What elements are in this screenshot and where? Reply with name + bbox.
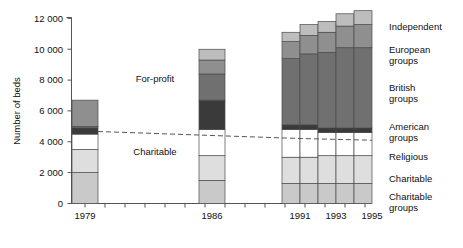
x-tick-label-1979: 1979	[74, 210, 95, 221]
bar-segment	[318, 133, 336, 156]
bar-segment	[354, 48, 372, 128]
annotation-for-profit: For-profit	[136, 73, 175, 84]
bar-segment	[354, 128, 372, 133]
legend: Independent European groups British grou…	[389, 21, 442, 213]
y-tick-label: 4 000	[39, 136, 63, 147]
y-tick-label: 6 000	[39, 105, 63, 116]
bar-segment	[300, 35, 318, 54]
bar-segment	[199, 49, 225, 60]
bar-segment	[199, 100, 225, 129]
bar-segment	[354, 156, 372, 184]
bar-segment	[318, 128, 336, 133]
x-axis-tick-labels: 1979 1986 1991 1993 1995	[74, 210, 382, 221]
bar-segment	[282, 157, 300, 183]
x-tick-label-1991: 1991	[289, 210, 310, 221]
bar-segment	[199, 129, 225, 155]
bar-segment	[300, 129, 318, 157]
legend-item-american-groups: American	[389, 121, 429, 132]
y-tick-label: 10 000	[34, 44, 63, 55]
y-axis-ticks	[68, 18, 72, 203]
legend-item-american-groups-line2: groups	[389, 132, 418, 143]
bar-segment	[354, 11, 372, 25]
bar-segment	[354, 133, 372, 156]
bar-segment	[199, 180, 225, 203]
y-tick-label: 2 000	[39, 167, 63, 178]
bar-segment	[199, 156, 225, 181]
bar-segment	[282, 129, 300, 157]
bar-segment	[282, 125, 300, 130]
bar-segment	[336, 156, 354, 184]
legend-item-charitable: Charitable	[389, 173, 432, 184]
bar-segment	[72, 134, 98, 149]
bar-segment	[318, 21, 336, 32]
y-axis-tick-labels: 0 2 000 4 000 6 000 8 000 10 000 12 000	[34, 13, 63, 209]
bar-segment	[300, 54, 318, 125]
x-tick-label-1993: 1993	[325, 210, 346, 221]
bar-segment	[199, 60, 225, 74]
legend-item-british-groups-line2: groups	[389, 93, 418, 104]
bar-segment	[282, 32, 300, 41]
bar-segment	[199, 74, 225, 100]
bar-segment	[72, 150, 98, 173]
legend-item-european-groups-line2: groups	[389, 55, 418, 66]
bar-segment	[300, 183, 318, 203]
bar-segment	[336, 26, 354, 48]
bar-segment	[318, 183, 336, 203]
bar-segment	[318, 156, 336, 184]
bar-segment	[282, 42, 300, 59]
y-tick-label: 8 000	[39, 74, 63, 85]
bar-segment	[336, 14, 354, 26]
bar-segment	[300, 25, 318, 36]
legend-item-religious: Religious	[389, 151, 428, 162]
bar-segment	[354, 183, 372, 203]
bar-segment	[72, 100, 98, 126]
bar-segment	[336, 133, 354, 156]
bar-segment	[336, 128, 354, 133]
bar-segment	[282, 183, 300, 203]
bars-group	[72, 11, 372, 204]
y-axis-title: Number of beds	[11, 77, 22, 145]
bar-segment	[318, 52, 336, 128]
legend-item-european-groups: European	[389, 44, 430, 55]
y-tick-label: 12 000	[34, 13, 63, 24]
x-axis-ticks	[85, 204, 365, 208]
bar-segment	[336, 183, 354, 203]
legend-item-charitable-groups-line2: groups	[389, 202, 418, 213]
bar-segment	[318, 32, 336, 52]
bar-segment	[72, 173, 98, 204]
annotation-charitable: Charitable	[133, 146, 176, 157]
chart-svg: 0 2 000 4 000 6 000 8 000 10 000 12 000 …	[0, 0, 463, 248]
legend-item-charitable-groups: Charitable	[389, 191, 432, 202]
x-tick-label-1995: 1995	[361, 210, 382, 221]
legend-item-british-groups: British	[389, 82, 415, 93]
bar-segment	[336, 48, 354, 128]
y-tick-label: 0	[58, 198, 63, 209]
bar-segment	[300, 125, 318, 130]
x-tick-label-1986: 1986	[201, 210, 222, 221]
bar-segment	[300, 157, 318, 183]
bar-segment	[72, 128, 98, 134]
bed-capacity-stacked-bar-chart: 0 2 000 4 000 6 000 8 000 10 000 12 000 …	[0, 0, 463, 248]
bar-segment	[354, 25, 372, 48]
legend-item-independent: Independent	[389, 21, 442, 32]
bar-segment	[282, 59, 300, 125]
